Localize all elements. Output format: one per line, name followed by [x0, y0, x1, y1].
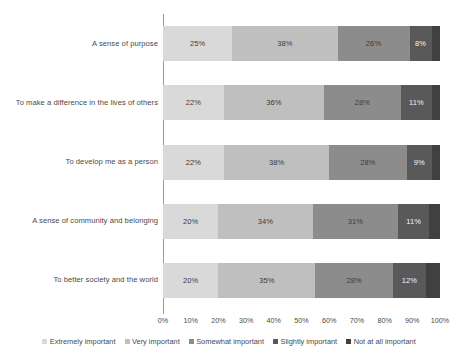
x-axis-tick: 10% [183, 316, 197, 325]
stacked-bar: 20%34%31%11% [163, 204, 440, 239]
legend-item[interactable]: Not at all important [346, 337, 416, 346]
bar-segment: 38% [224, 145, 329, 180]
bar-segment [426, 263, 440, 298]
plot-area: 25%38%26%8%22%36%28%11%22%38%28%9%20%34%… [163, 14, 440, 310]
stacked-bar: 22%36%28%11% [163, 85, 440, 120]
bar-segment-value: 28% [355, 98, 370, 107]
legend-swatch-icon [346, 339, 351, 344]
bar-segment-value: 38% [277, 39, 292, 48]
legend-label: Extremely important [50, 337, 116, 346]
bar-segment: 28% [315, 263, 393, 298]
legend-item[interactable]: Very important [125, 337, 180, 346]
x-axis-tick: 20% [211, 316, 225, 325]
bar-segment-value: 20% [183, 217, 198, 226]
legend-label: Somewhat important [196, 337, 264, 346]
x-axis-tick: 100% [431, 316, 449, 325]
bar-segment [432, 145, 440, 180]
bar-segment-value: 22% [186, 158, 201, 167]
bar-segment: 22% [163, 145, 224, 180]
bar-segment-value: 22% [186, 98, 201, 107]
bar-segment-value: 26% [366, 39, 381, 48]
bar-segment [429, 204, 440, 239]
bar-row: 20%34%31%11% [163, 204, 440, 239]
x-axis-tick: 70% [350, 316, 364, 325]
bar-segment: 28% [329, 145, 407, 180]
x-axis-tick-group: 0%10%20%30%40%50%60%70%80%90%100% [163, 316, 440, 328]
x-axis-tick: 30% [239, 316, 253, 325]
bar-segment-value: 28% [360, 158, 375, 167]
bar-segment: 8% [410, 26, 432, 61]
bar-segment-value: 34% [258, 217, 273, 226]
bar-segment-value: 25% [190, 39, 205, 48]
legend-swatch-icon [125, 339, 130, 344]
bar-row: 22%36%28%11% [163, 85, 440, 120]
legend-swatch-icon [273, 339, 278, 344]
bar-segment-value: 11% [409, 98, 424, 107]
bar-row: 25%38%26%8% [163, 26, 440, 61]
bar-segment [432, 26, 440, 61]
bar-segment: 22% [163, 85, 224, 120]
bar-row: 22%38%28%9% [163, 145, 440, 180]
bar-segment-value: 20% [183, 276, 198, 285]
bar-segment-value: 31% [348, 217, 363, 226]
bar-segment: 9% [407, 145, 432, 180]
category-label: To develop me as a person [0, 157, 158, 166]
legend-label: Not at all important [354, 337, 416, 346]
category-label: To make a difference in the lives of oth… [0, 98, 158, 107]
bar-segment: 36% [224, 85, 324, 120]
bar-segment [432, 85, 440, 120]
bar-segment: 34% [218, 204, 312, 239]
chart-legend: Extremely importantVery importantSomewha… [0, 337, 458, 346]
bar-segment: 20% [163, 204, 218, 239]
legend-item[interactable]: Extremely important [42, 337, 115, 346]
stacked-bar: 25%38%26%8% [163, 26, 440, 61]
x-axis-tick: 0% [158, 316, 168, 325]
stacked-bar: 20%35%28%12% [163, 263, 440, 298]
bar-segment-value: 9% [414, 158, 425, 167]
bar-segment-value: 8% [415, 39, 426, 48]
bar-segment: 38% [232, 26, 337, 61]
bar-segment: 28% [324, 85, 402, 120]
bar-segment: 11% [401, 85, 431, 120]
legend-label: Very important [132, 337, 180, 346]
stacked-bar-chart: A sense of purposeTo make a difference i… [0, 0, 458, 361]
category-label: A sense of purpose [0, 39, 158, 48]
x-axis-tick: 80% [377, 316, 391, 325]
bar-segment: 11% [398, 204, 428, 239]
stacked-bar: 22%38%28%9% [163, 145, 440, 180]
bar-segment-value: 38% [269, 158, 284, 167]
legend-swatch-icon [189, 339, 194, 344]
legend-item[interactable]: Somewhat important [189, 337, 264, 346]
bar-segment-value: 35% [259, 276, 274, 285]
category-label: A sense of community and belonging [0, 216, 158, 225]
bar-row: 20%35%28%12% [163, 263, 440, 298]
category-label: To better society and the world [0, 275, 158, 284]
legend-swatch-icon [42, 339, 47, 344]
bar-segment-value: 36% [266, 98, 281, 107]
bar-segment: 25% [163, 26, 232, 61]
bar-segment-value: 28% [346, 276, 361, 285]
legend-label: Slightly important [280, 337, 337, 346]
bar-segment: 31% [313, 204, 399, 239]
x-axis-tick: 40% [267, 316, 281, 325]
bar-segment: 26% [338, 26, 410, 61]
legend-item[interactable]: Slightly important [273, 337, 337, 346]
x-axis-tick: 60% [322, 316, 336, 325]
x-axis-tick: 50% [294, 316, 308, 325]
category-label-group: A sense of purposeTo make a difference i… [0, 14, 158, 310]
bar-segment: 20% [163, 263, 218, 298]
bar-segment-value: 12% [402, 276, 417, 285]
x-axis-tick: 90% [405, 316, 419, 325]
bar-segment: 12% [393, 263, 426, 298]
chart-title [0, 0, 458, 2]
bar-segment: 35% [218, 263, 315, 298]
bar-segment-value: 11% [406, 217, 421, 226]
